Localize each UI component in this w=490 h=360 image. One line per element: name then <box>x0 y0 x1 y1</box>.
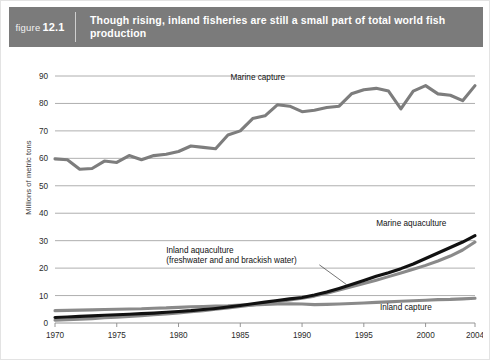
series-sublabel-inland-aquaculture: (freshwater and and brackish water) <box>166 256 297 265</box>
y-tick-label: 70 <box>39 127 49 136</box>
figure-word: figure <box>15 22 40 33</box>
figure-header: figure12.1 Though rising, inland fisheri… <box>9 7 483 47</box>
y-tick-label: 60 <box>39 154 49 163</box>
x-tick-label: 1970 <box>46 331 65 340</box>
x-tick-label: 1980 <box>169 331 188 340</box>
y-tick-label: 0 <box>43 319 48 328</box>
y-tick-label: 40 <box>39 209 49 218</box>
plot-area: Millions of metric tons 0102030405060708… <box>9 53 483 353</box>
x-tick-label: 1990 <box>293 331 312 340</box>
figure-title: Though rising, inland fisheries are stil… <box>90 14 483 40</box>
x-tick-label: 2000 <box>416 331 435 340</box>
y-tick-label: 50 <box>39 182 49 191</box>
x-tick-label: 1985 <box>231 331 250 340</box>
header-divider <box>75 12 76 42</box>
series-label-inland-aquaculture: Inland aquaculture <box>166 246 234 255</box>
figure-number: 12.1 <box>42 21 64 33</box>
series-label-marine-aquaculture: Marine aquaculture <box>376 219 447 228</box>
series-label-inland-capture: Inland capture <box>380 303 432 312</box>
y-tick-label: 90 <box>39 72 49 81</box>
x-tick-label: 1995 <box>355 331 374 340</box>
figure-label: figure12.1 <box>9 21 71 33</box>
y-tick-label: 80 <box>39 99 49 108</box>
y-tick-label: 30 <box>39 237 49 246</box>
series-line-marine-capture <box>55 86 475 170</box>
y-tick-label: 20 <box>39 264 49 273</box>
series-label-marine-capture: Marine capture <box>230 73 285 82</box>
y-tick-label: 10 <box>39 292 49 301</box>
x-tick-label: 1975 <box>108 331 127 340</box>
figure-container: figure12.1 Though rising, inland fisheri… <box>0 0 490 360</box>
line-chart: 0102030405060708090197019751980198519901… <box>9 53 483 353</box>
x-tick-label: 2004 <box>466 331 483 340</box>
